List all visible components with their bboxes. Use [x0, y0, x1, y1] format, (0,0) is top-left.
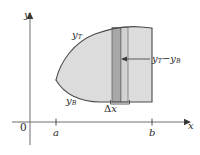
top-curve-label-subscript: T: [78, 33, 82, 41]
shaded-region-between-curves: [56, 27, 152, 102]
figure-canvas: [0, 0, 200, 155]
top-curve-label: yT: [72, 30, 82, 41]
strip-width-variable: x: [111, 103, 117, 114]
bottom-curve-label: yB: [66, 96, 76, 107]
tick-label-b: b: [149, 128, 155, 138]
tick-label-a: a: [53, 128, 59, 138]
strip-height-label: yT−yB: [152, 54, 181, 65]
area-between-curves-figure: y x 0 a b yT yB yT−yB Δx: [0, 0, 200, 155]
bottom-curve-label-subscript: B: [72, 99, 77, 107]
height-leader-anchor-dot: [122, 58, 124, 60]
x-axis-label: x: [188, 121, 194, 131]
y-axis-label: y: [24, 10, 30, 20]
strip-height-second-subscript: B: [176, 57, 181, 65]
representative-strip-light: [121, 27, 128, 102]
strip-width-label: Δx: [104, 104, 117, 114]
origin-label: 0: [20, 122, 27, 133]
representative-strip-dark: [112, 27, 121, 102]
